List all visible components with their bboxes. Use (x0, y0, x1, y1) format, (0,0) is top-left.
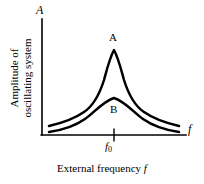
x-axis-label-symbol: f (144, 162, 147, 174)
y-axis-tip-label: A (36, 4, 43, 16)
resonance-curve-figure: A f Amplitude of oscillating system A B … (0, 0, 204, 184)
curve-b-label: B (110, 104, 117, 115)
y-axis-label-line-1: Amplitude of (8, 49, 20, 108)
x-axis-label-text: External frequency (57, 162, 141, 174)
y-axis-label-line-2: oscillating system (21, 38, 33, 117)
x-axis-label: External frequency f (0, 163, 204, 174)
curve-a-label: A (109, 32, 117, 43)
tick-label-f0-subscript: 0 (108, 145, 112, 154)
x-axis-tick-label-f0: f0 (105, 141, 112, 154)
x-axis-tip-label: f (188, 123, 191, 135)
y-axis-label: Amplitude of oscillating system (4, 26, 38, 130)
